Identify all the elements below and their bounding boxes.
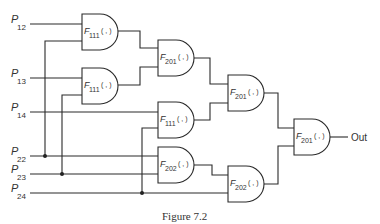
gate-f202-2: F 202 ( , ) [228,166,264,202]
svg-text:( , ): ( , ) [178,53,189,61]
junction-dot [140,191,144,195]
svg-text:23: 23 [17,173,26,182]
svg-text:12: 12 [17,23,26,32]
svg-text:201: 201 [301,137,313,144]
svg-text:( , ): ( , ) [177,115,188,123]
input-label-p12: P 12 [11,13,26,32]
input-label-p22: P 22 [11,145,26,164]
svg-text:( , ): ( , ) [248,88,259,96]
gate-f202-1: F 202 ( , ) [158,147,194,183]
svg-text:13: 13 [17,77,26,86]
gate-f111-1: F 111 ( , ) [82,14,118,50]
svg-text:202: 202 [235,184,247,191]
gate-f201-1: F 201 ( , ) [158,40,194,76]
svg-text:14: 14 [17,111,26,120]
input-label-p13: P 13 [11,67,26,86]
svg-text:202: 202 [165,165,177,172]
input-label-p14: P 14 [11,101,26,120]
svg-text:111: 111 [165,120,176,127]
svg-text:( , ): ( , ) [314,132,325,140]
svg-text:24: 24 [17,192,26,201]
output-label: Out [351,132,367,143]
gate-f201-2: F 201 ( , ) [228,75,264,111]
svg-text:( , ): ( , ) [178,160,189,168]
svg-text:( , ): ( , ) [101,27,112,35]
figure-caption: Figure 7.2 [162,210,207,222]
input-label-p24: P 24 [11,182,26,201]
logic-circuit-diagram: P 12 P 13 P 14 P 22 P 23 P 24 F 111 ( , … [0,0,380,224]
svg-text:( , ): ( , ) [101,81,112,89]
gate-f111-3: F 111 ( , ) [158,102,194,138]
junction-dot [43,154,47,158]
svg-text:111: 111 [89,32,100,39]
svg-text:( , ): ( , ) [248,179,259,187]
svg-text:111: 111 [89,86,100,93]
svg-text:22: 22 [17,155,26,164]
svg-text:201: 201 [165,58,177,65]
junction-dot [60,172,64,176]
input-label-p23: P 23 [11,163,26,182]
gate-f111-2: F 111 ( , ) [82,68,118,104]
svg-text:201: 201 [235,93,247,100]
gate-f201-output: F 201 ( , ) [294,119,330,155]
